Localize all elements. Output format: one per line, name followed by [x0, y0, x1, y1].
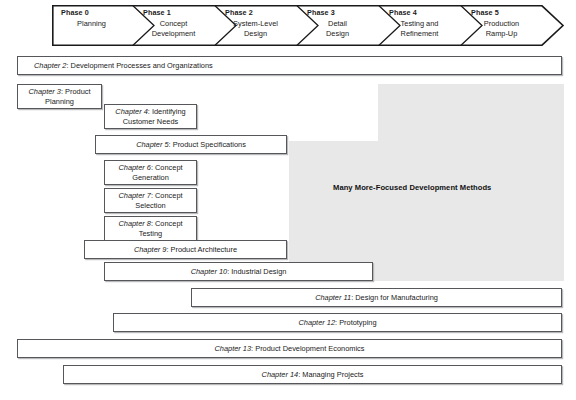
chapter-bar-13[interactable]: Chapter 13: Product Development Economic…: [17, 339, 562, 358]
chapter-title: Managing Projects: [302, 370, 363, 379]
phase-cell-0[interactable]: Phase 0 Planning: [52, 5, 134, 46]
chapter-label: Chapter 3: [28, 87, 60, 96]
chapter-title-line1: Product: [65, 87, 90, 96]
chapter-label: Chapter 11: [315, 293, 351, 302]
chapter-title: Prototyping: [339, 318, 376, 327]
chapter-label: Chapter 10: [191, 267, 228, 276]
phase-name: Detail Design: [307, 19, 380, 38]
chapter-label: Chapter 8: [118, 219, 150, 228]
chapter-title: Industrial Design: [231, 267, 286, 276]
chapter-title-line1: Identifying: [152, 107, 186, 116]
phase-cell-5[interactable]: Phase 5 Production Ramp-Up: [462, 5, 544, 46]
focused-methods-region-upper: [378, 84, 564, 141]
chapter-label: Chapter 6: [118, 163, 150, 172]
chapter-title-line2: Planning: [45, 97, 74, 106]
phase-name-line1: Concept: [143, 19, 204, 29]
chapter-bar-text: Chapter 10: Industrial Design: [187, 267, 291, 277]
phase-name-line2: Ramp-Up: [471, 29, 532, 39]
chapter-title: Product Specifications: [173, 140, 246, 149]
phase-name-line2: Design: [307, 29, 368, 39]
phase-number: Phase 1: [143, 8, 216, 17]
chapter-bar-8[interactable]: Chapter 8: ConceptTesting: [104, 216, 197, 241]
focused-methods-region-main: [289, 141, 564, 281]
chapter-label: Chapter 12: [298, 318, 335, 327]
phase-name: Testing and Refinement: [389, 19, 462, 38]
phase-number: Phase 2: [225, 8, 298, 17]
phase-number: Phase 4: [389, 8, 462, 17]
chapter-title-line1: Concept: [155, 163, 183, 172]
chapter-bar-text: Chapter 2: Development Processes and Org…: [18, 61, 217, 71]
chapter-bar-text: Chapter 8: ConceptTesting: [114, 219, 186, 238]
chapter-bar-6[interactable]: Chapter 6: ConceptGeneration: [104, 160, 197, 185]
chapter-label: Chapter 13: [215, 344, 252, 353]
chapter-title: Development Processes and Organizations: [71, 61, 213, 70]
chapter-bar-7[interactable]: Chapter 7: ConceptSelection: [104, 188, 197, 213]
phase-header-band: Phase 0 Planning Phase 1 Concept Develop…: [52, 5, 564, 46]
chapter-title-line2: Selection: [135, 201, 165, 210]
chapter-label: Chapter 2: [34, 61, 66, 70]
chapter-bar-text: Chapter 5: Product Specifications: [132, 140, 250, 150]
chapter-label: Chapter 4: [115, 107, 147, 116]
chapter-title-line1: Concept: [155, 219, 183, 228]
chapter-bar-9[interactable]: Chapter 9: Product Architecture: [84, 240, 287, 259]
phase-cell-3[interactable]: Phase 3 Detail Design: [298, 5, 380, 46]
process-diagram-canvas: Many More-Focused Development Methods Ph…: [0, 0, 576, 400]
chapter-bar-2[interactable]: Chapter 2: Development Processes and Org…: [17, 56, 562, 75]
chapter-bar-3[interactable]: Chapter 3: ProductPlanning: [17, 84, 102, 109]
chapter-title-line1: Concept: [155, 191, 183, 200]
phase-name-line1: System-Level: [225, 19, 286, 29]
chapter-bar-10[interactable]: Chapter 10: Industrial Design: [104, 262, 373, 281]
phase-cell-4[interactable]: Phase 4 Testing and Refinement: [380, 5, 462, 46]
chapter-label: Chapter 5: [136, 140, 168, 149]
chapter-bar-text: Chapter 9: Product Architecture: [130, 245, 241, 255]
chapter-bar-text: Chapter 4: IdentifyingCustomer Needs: [111, 107, 189, 126]
chapter-title: Design for Manufacturing: [355, 293, 438, 302]
phase-number: Phase 5: [471, 8, 544, 17]
chapter-title-line2: Customer Needs: [123, 117, 178, 126]
chapter-bar-4[interactable]: Chapter 4: IdentifyingCustomer Needs: [104, 104, 197, 129]
chapter-bar-text: Chapter 13: Product Development Economic…: [211, 344, 369, 354]
chapter-bar-14[interactable]: Chapter 14: Managing Projects: [63, 365, 562, 384]
phase-name-line1: Planning: [61, 19, 122, 29]
phase-cell-1[interactable]: Phase 1 Concept Development: [134, 5, 216, 46]
chapter-bar-text: Chapter 7: ConceptSelection: [114, 191, 186, 210]
chapter-bar-text: Chapter 6: ConceptGeneration: [114, 163, 186, 182]
chapter-bar-11[interactable]: Chapter 11: Design for Manufacturing: [191, 288, 562, 307]
chapter-title-line2: Testing: [139, 229, 162, 238]
phase-name-line1: Detail: [307, 19, 368, 29]
chapter-bar-text: Chapter 11: Design for Manufacturing: [311, 293, 442, 303]
phase-number: Phase 3: [307, 8, 380, 17]
chapter-label: Chapter 14: [262, 370, 299, 379]
chapter-label: Chapter 7: [118, 191, 150, 200]
chapter-bar-text: Chapter 14: Managing Projects: [258, 370, 368, 380]
chapter-bar-5[interactable]: Chapter 5: Product Specifications: [95, 135, 287, 154]
chapter-bar-text: Chapter 12: Prototyping: [294, 318, 380, 328]
chapter-bar-12[interactable]: Chapter 12: Prototyping: [113, 313, 562, 332]
phase-name: Planning: [61, 19, 134, 29]
focused-methods-label: Many More-Focused Development Methods: [333, 183, 491, 192]
phase-name-line2: Development: [143, 29, 204, 39]
phase-name: Production Ramp-Up: [471, 19, 544, 38]
phase-number: Phase 0: [61, 8, 134, 17]
chapter-title: Product Development Economics: [255, 344, 364, 353]
chapter-label: Chapter 9: [134, 245, 166, 254]
chapter-bar-text: Chapter 3: ProductPlanning: [24, 87, 94, 106]
phase-name: Concept Development: [143, 19, 216, 38]
phase-name-line2: Refinement: [389, 29, 450, 39]
phase-cell-2[interactable]: Phase 2 System-Level Design: [216, 5, 298, 46]
phase-name: System-Level Design: [225, 19, 298, 38]
phase-name-line1: Testing and: [389, 19, 450, 29]
phase-name-line2: Design: [225, 29, 286, 39]
chapter-title-line2: Generation: [132, 173, 169, 182]
phase-name-line1: Production: [471, 19, 532, 29]
chapter-title: Product Architecture: [171, 245, 238, 254]
